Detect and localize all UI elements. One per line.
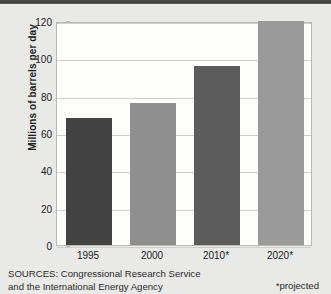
bar-1995: [66, 118, 112, 245]
projected-footnote: *projected: [276, 280, 319, 291]
bar-chart-figure: Millions of barrels per day 020406080100…: [0, 4, 331, 294]
bar-2020: [258, 21, 304, 245]
y-axis-tick-label: 120: [14, 17, 52, 28]
x-axis-tick-label: 1995: [56, 250, 120, 261]
bars-group: [57, 23, 311, 245]
y-axis-tick-labels: 020406080100120: [14, 22, 52, 246]
y-axis-tick-label: 80: [14, 91, 52, 102]
y-axis-tick-label: 60: [14, 129, 52, 140]
x-axis-tick-labels: 199520002010*2020*: [56, 250, 312, 266]
gridline: [57, 247, 311, 248]
y-axis-tick-label: 0: [14, 241, 52, 252]
y-axis-tick-label: 20: [14, 203, 52, 214]
y-axis-tick-label: 40: [14, 166, 52, 177]
y-axis-tick-label: 100: [14, 54, 52, 65]
sources-note: SOURCES: Congressional Research Service …: [8, 267, 238, 293]
bar-2010: [194, 66, 240, 245]
x-axis-tick-label: 2020*: [248, 250, 312, 261]
plot-area: [56, 22, 312, 246]
x-axis-tick-label: 2000: [120, 250, 184, 261]
x-axis-tick-label: 2010*: [184, 250, 248, 261]
sources-line-1: SOURCES: Congressional Research Service: [8, 267, 238, 280]
sources-line-2: and the International Energy Agency: [8, 280, 238, 293]
bar-2000: [130, 103, 176, 245]
